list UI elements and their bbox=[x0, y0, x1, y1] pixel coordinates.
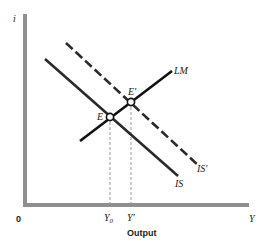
lm-label: LM bbox=[173, 65, 189, 76]
e-prime-label: E' bbox=[127, 86, 137, 97]
x-axis-end-label: Y bbox=[249, 213, 256, 224]
x-axis-title: Output bbox=[127, 228, 157, 238]
x-axis bbox=[23, 203, 249, 207]
is-prime-label: IS' bbox=[196, 163, 208, 174]
equilibrium-e-marker bbox=[106, 113, 113, 120]
e-label: E bbox=[96, 111, 103, 122]
is-label: IS bbox=[174, 178, 183, 189]
is-lm-diagram: i 0 Y Output LM IS IS' E E' Y0 Y' bbox=[0, 0, 268, 252]
equilibrium-e-prime-marker bbox=[127, 98, 134, 105]
origin-label: 0 bbox=[16, 214, 21, 224]
y-axis-label: i bbox=[13, 13, 16, 24]
y0-label: Y0 bbox=[104, 212, 114, 225]
y0-subscript: 0 bbox=[110, 217, 114, 225]
y-prime-label: Y' bbox=[127, 212, 136, 223]
y-axis bbox=[23, 14, 27, 207]
